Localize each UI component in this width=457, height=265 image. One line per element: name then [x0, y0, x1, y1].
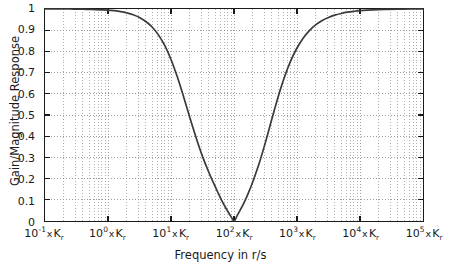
x-tick-label: 105xKr	[406, 228, 443, 239]
x-tick-label: 104xKr	[342, 228, 379, 239]
x-tick-label: 100xKr	[89, 228, 126, 239]
x-tick-label: 101xKr	[152, 228, 189, 239]
x-tick-label: 10-1xKr	[24, 228, 63, 239]
magnitude-response-curve	[45, 9, 423, 221]
notch-filter-magnitude-plot: 10.90.80.70.60.50.40.30.20.10 Gain/Magni…	[0, 0, 457, 265]
y-tick-label: 0	[28, 217, 35, 228]
x-axis-title-text: Frequency in r/s	[175, 248, 267, 262]
response-trace	[45, 9, 423, 221]
x-tick-label: 102xKr	[216, 228, 253, 239]
y-axis-title: Gain/Magnitude Response	[8, 4, 22, 219]
x-axis-title: Frequency in r/s	[0, 248, 457, 262]
y-tick-label: 1	[28, 3, 35, 14]
x-tick-label: 103xKr	[279, 228, 316, 239]
plot-area	[44, 8, 424, 222]
x-axis-tick-labels: 10-1xKr100xKr101xKr102xKr103xKr104xKr105…	[0, 228, 457, 246]
